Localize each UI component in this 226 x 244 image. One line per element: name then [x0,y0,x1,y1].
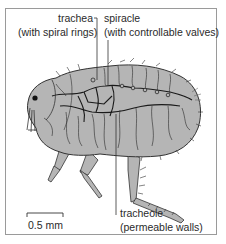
label-trachea-note: (with spiral rings) [18,26,97,38]
eye [32,95,37,100]
label-tracheole: tracheole [120,207,163,219]
scale-bar-graphic [27,213,63,217]
label-trachea: trachea [58,12,92,24]
trachea-name: trachea [58,12,93,24]
flea-body [27,65,200,157]
middle-leg [80,150,102,198]
label-spiracle-note: (with controllable valves) [104,26,219,38]
label-spiracle: spiracle [104,12,140,24]
label-tracheole-note: (permeable walls) [120,221,203,233]
scale-bar-label: 0.5 mm [28,219,63,231]
